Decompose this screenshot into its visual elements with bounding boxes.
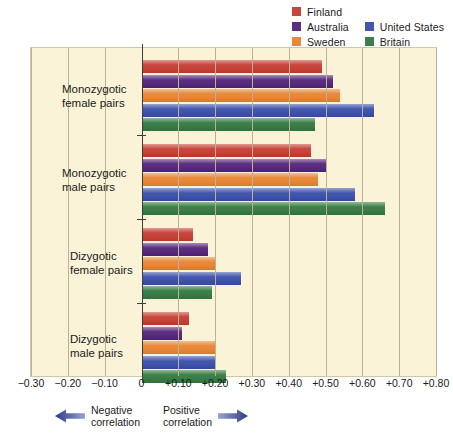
gridline [215,48,216,376]
category-label-monozygotic-male-pairs: Monozygotic male pairs [62,167,158,194]
legend-swatch-britain [365,37,374,46]
gridline [31,48,32,376]
bar-monozygotic-female-pairs-australia [142,75,334,88]
legend-item-united-states: United States [365,19,450,34]
gridline [252,48,253,376]
legend-item-australia: Australia [292,19,355,34]
bar-monozygotic-male-pairs-australia [142,159,326,172]
right-arrow-icon [218,409,248,423]
bar-monozygotic-female-pairs-finland [142,60,322,73]
gridline [436,48,437,376]
gridline [362,48,363,376]
legend-swatch-finland [292,7,301,16]
group-separator-tick [137,135,146,136]
category-label-dizygotic-female-pairs: Dizygotic female pairs [70,250,166,277]
x-tick-0-10: −0.10 [91,377,118,389]
legend-swatch-united-states [365,22,374,31]
legend-label-sweden: Sweden [307,36,346,48]
x-tick-0-50: +0.50 [312,377,339,389]
positive-correlation-label: Positive correlation [163,404,212,428]
x-tick-0-80: +0.80 [423,377,450,389]
x-axis: −0.30−0.20−0.100+0.10+0.20+0.30+0.40+0.5… [30,377,437,393]
bar-dizygotic-female-pairs-britain [142,286,212,299]
gridline [326,48,327,376]
bar-monozygotic-female-pairs-sweden [142,89,341,102]
category-label-dizygotic-male-pairs: Dizygotic male pairs [70,333,166,360]
bar-monozygotic-female-pairs-united-states [142,104,374,117]
legend-label-australia: Australia [307,21,349,33]
gridline [289,48,290,376]
bar-dizygotic-male-pairs-finland [142,312,190,325]
bar-monozygotic-male-pairs-finland [142,144,311,157]
bar-monozygotic-male-pairs-sweden [142,173,319,186]
legend-label-britain: Britain [380,36,410,48]
negative-correlation-note: Negative correlation [55,404,140,428]
negative-correlation-label: Negative correlation [91,404,140,428]
gridline [399,48,400,376]
chart-legend: Finland Australia Sweden United States B… [292,4,450,49]
legend-swatch-sweden [292,37,301,46]
bar-monozygotic-male-pairs-united-states [142,188,356,201]
x-tick-0-40: +0.40 [275,377,302,389]
x-tick-0-70: +0.70 [386,377,413,389]
group-separator-tick [137,219,146,220]
x-tick-0-30: −0.30 [18,377,45,389]
legend-item-finland: Finland [292,4,355,19]
correlation-bar-chart: Finland Australia Sweden United States B… [0,0,453,436]
legend-swatch-australia [292,22,301,31]
left-arrow-icon [55,409,85,423]
x-tick-0-30: +0.30 [239,377,266,389]
legend-label-finland: Finland [307,6,342,18]
legend-label-united-states: United States [380,21,444,33]
gridline [178,48,179,376]
group-separator-tick [137,303,146,304]
bar-dizygotic-female-pairs-finland [142,228,194,241]
x-tick-0-10: +0.10 [165,377,192,389]
category-label-monozygotic-female-pairs: Monozygotic female pairs [62,83,158,110]
x-tick-0: 0 [139,377,145,389]
x-tick-0-20: −0.20 [55,377,82,389]
x-tick-0-20: +0.20 [202,377,229,389]
x-tick-0-60: +0.60 [349,377,376,389]
positive-correlation-note: Positive correlation [163,404,248,428]
